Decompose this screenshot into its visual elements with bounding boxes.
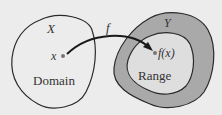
image-label-fx: f(x) <box>158 46 175 60</box>
point-x-dot <box>61 54 65 58</box>
point-fx-dot <box>153 51 157 55</box>
function-label-f: f <box>106 20 112 35</box>
domain-label: Domain <box>33 73 75 88</box>
range-label: Range <box>138 68 171 83</box>
function-mapping-diagram: X Y f x f(x) Domain Range <box>0 0 222 115</box>
set-label-x: X <box>46 21 56 36</box>
point-label-x: x <box>50 49 57 63</box>
